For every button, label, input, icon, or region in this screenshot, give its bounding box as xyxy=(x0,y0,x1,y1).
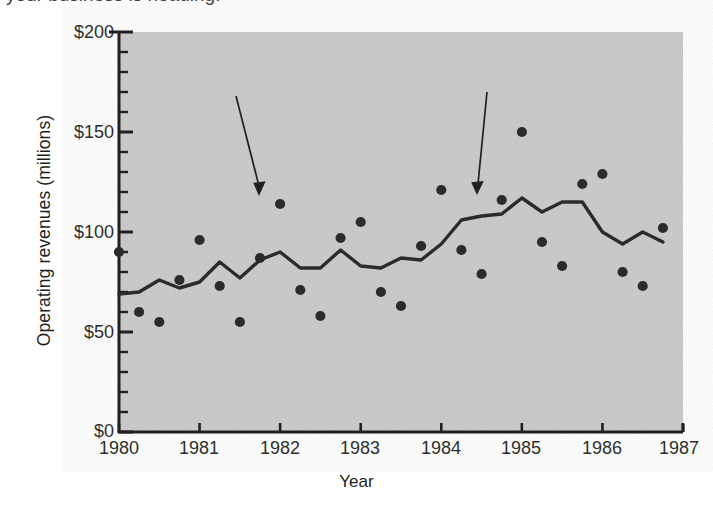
data-point xyxy=(618,267,628,277)
plot-area xyxy=(0,0,713,505)
data-point xyxy=(497,195,507,205)
data-point xyxy=(114,247,124,257)
data-point xyxy=(436,185,446,195)
data-point xyxy=(557,261,567,271)
data-point xyxy=(336,233,346,243)
data-point xyxy=(195,235,205,245)
data-point xyxy=(215,281,225,291)
data-point xyxy=(456,245,466,255)
data-point xyxy=(517,127,527,137)
data-point xyxy=(235,317,245,327)
chart-figure: your business is heading. Operating reve… xyxy=(0,0,713,505)
data-point xyxy=(174,275,184,285)
data-point xyxy=(376,287,386,297)
data-point xyxy=(154,317,164,327)
data-point xyxy=(134,307,144,317)
data-point xyxy=(315,311,325,321)
data-point xyxy=(597,169,607,179)
data-point xyxy=(537,237,547,247)
data-point xyxy=(416,241,426,251)
data-point xyxy=(255,253,265,263)
data-point xyxy=(295,285,305,295)
data-point xyxy=(275,199,285,209)
data-point xyxy=(638,281,648,291)
paper-grain xyxy=(119,32,683,432)
data-point xyxy=(658,223,668,233)
data-point xyxy=(396,301,406,311)
data-point xyxy=(577,179,587,189)
data-point xyxy=(356,217,366,227)
data-point xyxy=(477,269,487,279)
